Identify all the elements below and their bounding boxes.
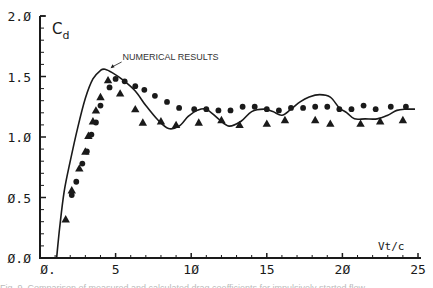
triangle-marker xyxy=(399,116,407,123)
circle-marker xyxy=(113,76,119,82)
circle-marker xyxy=(79,161,85,167)
triangle-marker xyxy=(131,105,139,112)
circle-marker xyxy=(240,104,246,110)
triangle-marker xyxy=(62,215,70,222)
drag-coefficient-chart: Ø.51Ø152Ø25Ø.ØØ.51.Ø1.52.Ø NUMERICAL RES… xyxy=(0,0,433,288)
triangle-marker xyxy=(263,119,271,126)
x-tick-label: 15 xyxy=(259,262,275,277)
axis-tick-labels: Ø.51Ø152Ø25Ø.ØØ.51.Ø1.52.Ø xyxy=(8,9,426,277)
circle-marker xyxy=(388,104,394,110)
x-tick-label: Ø. xyxy=(40,262,56,277)
circle-marker xyxy=(373,106,379,112)
annotations: NUMERICAL RESULTS xyxy=(111,52,219,68)
x-axis-label: Vt/c xyxy=(378,240,405,253)
circle-marker xyxy=(164,99,170,105)
y-axis-label: Cd xyxy=(52,20,69,42)
circle-marker xyxy=(191,106,197,112)
numerical-results-curve xyxy=(57,69,415,258)
triangle-marker xyxy=(172,121,180,128)
x-tick-label: 2Ø xyxy=(335,262,351,277)
triangle-marker xyxy=(68,186,76,193)
triangle-marker xyxy=(356,119,364,126)
axis-ticks xyxy=(40,16,418,258)
circle-marker xyxy=(107,84,113,90)
circle-marker xyxy=(349,106,355,112)
x-tick-label: 25 xyxy=(410,262,426,277)
circle-marker xyxy=(73,179,79,185)
circle-marker xyxy=(98,103,104,109)
circle-marker xyxy=(312,104,318,110)
axes xyxy=(40,16,421,259)
circle-marker xyxy=(141,87,147,93)
circle-marker xyxy=(228,107,234,113)
triangle-marker xyxy=(326,119,334,126)
circle-marker xyxy=(403,104,409,110)
circle-marker xyxy=(132,83,138,89)
x-tick-label: 5 xyxy=(112,262,120,277)
circle-marker xyxy=(336,106,342,112)
triangle-marker xyxy=(311,116,319,123)
circle-marker xyxy=(264,106,270,112)
numerical-results-line xyxy=(57,69,415,258)
circle-marker xyxy=(288,105,294,111)
triangle-data-points xyxy=(62,76,408,223)
triangle-marker xyxy=(281,116,289,123)
circle-marker xyxy=(300,105,306,111)
y-tick-label: 2.Ø xyxy=(8,9,32,24)
x-tick-label: 1Ø xyxy=(183,262,199,277)
circle-marker xyxy=(176,105,182,111)
figure-caption: Fig. 9. Comparison of measured and calcu… xyxy=(0,282,433,288)
triangle-marker xyxy=(195,118,203,125)
circle-marker xyxy=(324,104,330,110)
y-tick-label: 1.Ø xyxy=(8,130,32,145)
triangle-marker xyxy=(139,118,147,125)
y-tick-label: 1.5 xyxy=(8,70,31,85)
y-tick-label: Ø.5 xyxy=(8,191,31,206)
circle-marker xyxy=(152,93,158,99)
circle-marker xyxy=(361,103,367,109)
circle-marker xyxy=(122,78,128,84)
triangle-marker xyxy=(116,89,124,96)
circle-marker xyxy=(216,107,222,113)
circle-marker xyxy=(203,106,209,112)
y-tick-label: Ø.Ø xyxy=(8,251,32,266)
circle-marker xyxy=(276,107,282,113)
triangle-marker xyxy=(104,76,112,83)
numerical-results-annotation: NUMERICAL RESULTS xyxy=(123,52,219,62)
circle-marker xyxy=(252,104,258,110)
triangle-marker xyxy=(96,93,104,100)
